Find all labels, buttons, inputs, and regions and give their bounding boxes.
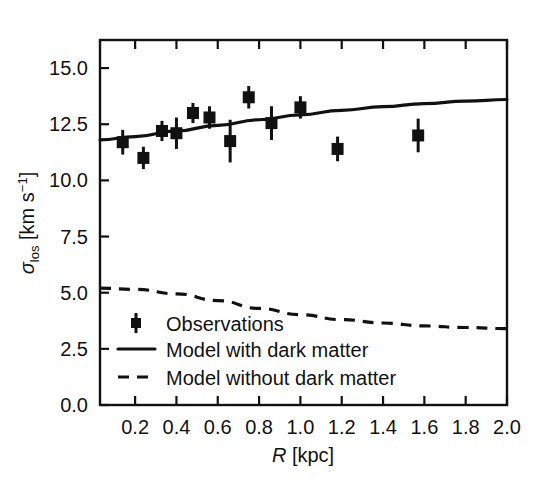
- model-without-dark-matter-line: [100, 288, 507, 328]
- observation-point: [412, 119, 424, 153]
- scatter-chart: 0.02.55.07.510.012.515.0 0.20.40.60.81.0…: [0, 0, 534, 483]
- data-marker: [156, 125, 168, 137]
- x-axis-title: R [kpc]: [272, 444, 334, 466]
- legend-glyph-observations: [131, 313, 141, 333]
- observation-point: [170, 117, 182, 148]
- x-axis-title-unit: [kpc]: [286, 444, 334, 466]
- data-marker: [243, 91, 255, 103]
- x-axis-title-symbol: R: [272, 444, 286, 466]
- legend-label-model-without-dark-matter: Model without dark matter: [166, 367, 396, 389]
- data-marker: [224, 135, 236, 147]
- observation-points: [117, 86, 424, 169]
- x-tick-label-0.2: 0.2: [121, 416, 149, 438]
- data-marker: [332, 143, 344, 155]
- y-axis-tick-labels: 0.02.55.07.510.012.515.0: [49, 57, 88, 416]
- y-axis-title-symbol: σ: [16, 261, 38, 274]
- y-tick-label-0.0: 0.0: [60, 394, 88, 416]
- data-marker: [117, 136, 129, 148]
- data-marker: [294, 101, 306, 113]
- observation-point: [243, 86, 255, 108]
- y-tick-label-15.0: 15.0: [49, 57, 88, 79]
- y-tick-label-12.5: 12.5: [49, 113, 88, 135]
- y-tick-label-2.5: 2.5: [60, 338, 88, 360]
- observation-point: [265, 106, 277, 140]
- x-tick-label-1.0: 1.0: [286, 416, 314, 438]
- x-tick-label-0.6: 0.6: [204, 416, 232, 438]
- data-marker: [170, 127, 182, 139]
- x-tick-label-1.8: 1.8: [452, 416, 480, 438]
- y-axis-title-superscript: −1: [15, 177, 30, 192]
- data-marker: [412, 129, 424, 141]
- observation-point: [187, 103, 199, 123]
- observation-point: [156, 121, 168, 141]
- y-axis-ticks: [100, 68, 109, 405]
- x-tick-label-0.4: 0.4: [163, 416, 191, 438]
- legend-label-model-with-dark-matter: Model with dark matter: [166, 339, 369, 361]
- data-marker: [187, 107, 199, 119]
- x-tick-label-1.2: 1.2: [328, 416, 356, 438]
- observation-point: [137, 147, 149, 169]
- y-axis-title-unit-open: [km s: [16, 192, 38, 245]
- y-axis-title: σlos [km s−1]: [15, 172, 42, 274]
- legend: Observations Model with dark matter Mode…: [118, 313, 396, 389]
- observation-point: [117, 130, 129, 155]
- x-tick-label-1.4: 1.4: [369, 416, 397, 438]
- x-tick-label-0.8: 0.8: [245, 416, 273, 438]
- data-marker: [137, 152, 149, 164]
- data-marker: [203, 111, 215, 123]
- y-tick-label-10.0: 10.0: [49, 169, 88, 191]
- y-tick-label-5.0: 5.0: [60, 282, 88, 304]
- observation-point: [332, 137, 344, 162]
- x-axis-tick-labels: 0.20.40.60.81.01.21.41.61.82.0: [121, 416, 521, 438]
- x-tick-label-1.6: 1.6: [410, 416, 438, 438]
- y-tick-label-7.5: 7.5: [60, 226, 88, 248]
- legend-label-observations: Observations: [166, 313, 284, 335]
- y-axis-title-subscript: los: [27, 245, 42, 262]
- x-tick-label-2.0: 2.0: [493, 416, 521, 438]
- figure-container: 0.02.55.07.510.012.515.0 0.20.40.60.81.0…: [0, 0, 534, 483]
- data-marker: [265, 117, 277, 129]
- y-axis-title-unit-close: ]: [16, 172, 38, 178]
